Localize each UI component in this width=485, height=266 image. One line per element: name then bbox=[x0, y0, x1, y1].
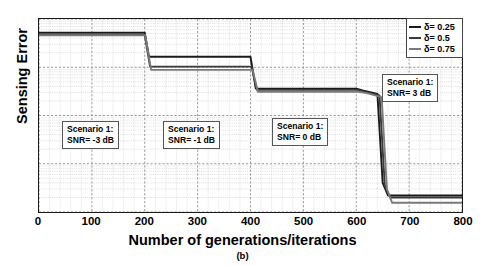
x-axis-tick: 0 bbox=[18, 216, 58, 228]
y-axis-label: Sensing Error bbox=[14, 11, 30, 141]
annotation-line-2: SNR= 0 dB bbox=[277, 132, 323, 143]
annotation-line-1: Scenario 1: bbox=[67, 124, 114, 135]
annotation-line-1: Scenario 1: bbox=[277, 121, 323, 132]
x-axis-tick: 700 bbox=[390, 216, 430, 228]
x-axis-label: Number of generations/iterations bbox=[0, 232, 485, 248]
chart-series-lines bbox=[39, 19, 462, 212]
x-axis-tick: 600 bbox=[337, 216, 377, 228]
annotation-box: Scenario 1:SNR= -1 dB bbox=[163, 121, 220, 149]
legend-item[interactable]: δ= 0.25 bbox=[409, 22, 459, 32]
legend-line-swatch-icon bbox=[409, 37, 421, 39]
x-axis-tick: 400 bbox=[231, 216, 271, 228]
annotation-box: Scenario 1:SNR= -3 dB bbox=[62, 121, 119, 149]
legend-item-label: δ= 0.5 bbox=[424, 34, 450, 43]
x-axis-tick: 300 bbox=[177, 216, 217, 228]
chart-legend: δ= 0.25δ= 0.5δ= 0.75 bbox=[406, 18, 463, 58]
annotation-box: Scenario 1:SNR= 0 dB bbox=[272, 118, 328, 146]
x-axis-tick: 500 bbox=[284, 216, 324, 228]
annotation-line-2: SNR= -1 dB bbox=[168, 135, 215, 146]
legend-item[interactable]: δ= 0.75 bbox=[409, 44, 459, 54]
annotation-line-1: Scenario 1: bbox=[168, 124, 215, 135]
annotation-line-2: SNR= 3 dB bbox=[387, 88, 433, 99]
chart-figure: 10-110-210-310-410-5 Sensing Error Scena… bbox=[0, 0, 485, 266]
x-axis-tick: 100 bbox=[71, 216, 111, 228]
x-axis-tick: 200 bbox=[124, 216, 164, 228]
legend-line-swatch-icon bbox=[409, 48, 421, 50]
annotation-line-1: Scenario 1: bbox=[387, 77, 433, 88]
legend-item-label: δ= 0.75 bbox=[424, 45, 455, 54]
legend-line-swatch-icon bbox=[409, 26, 421, 28]
x-axis-tick: 800 bbox=[443, 216, 483, 228]
legend-item-label: δ= 0.25 bbox=[424, 23, 455, 32]
plot-area bbox=[38, 18, 463, 213]
figure-subcaption: (b) bbox=[0, 250, 485, 261]
annotation-line-2: SNR= -3 dB bbox=[67, 135, 114, 146]
annotation-box: Scenario 1:SNR= 3 dB bbox=[382, 74, 438, 102]
legend-item[interactable]: δ= 0.5 bbox=[409, 33, 459, 43]
